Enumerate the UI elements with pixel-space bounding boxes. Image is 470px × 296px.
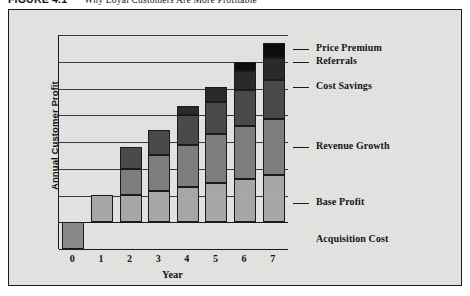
- bar-stack: [91, 195, 113, 222]
- bar-segment-base-profit: [120, 195, 142, 222]
- legend-label-cost-savings: Cost Savings: [316, 80, 372, 91]
- bar-segment-price-premium: [263, 43, 285, 58]
- x-tick-6: 6: [234, 253, 254, 264]
- figure-caption: FIGURE 4.1Why Loyal Customers Are More P…: [8, 0, 257, 5]
- zero-baseline: [59, 222, 288, 223]
- bar-segment-cost-savings: [205, 102, 227, 134]
- gridline: [59, 35, 288, 36]
- bar-stack: [205, 87, 227, 222]
- bar-segment-referrals: [263, 58, 285, 81]
- x-tick-5: 5: [205, 253, 225, 264]
- legend-label-price-premium: Price Premium: [316, 42, 382, 53]
- bar-segment-cost-savings: [234, 90, 256, 126]
- plot-area: [58, 35, 287, 249]
- figure-caption-text: Why Loyal Customers Are More Profitable: [84, 0, 257, 5]
- bar-segment-revenue-growth: [148, 155, 170, 191]
- x-tick-0: 0: [62, 253, 82, 264]
- x-tick-4: 4: [177, 253, 197, 264]
- legend-leader-line: [293, 62, 309, 63]
- bar-segment-cost-savings: [120, 147, 142, 168]
- x-tick-1: 1: [91, 253, 111, 264]
- bar-segment-referrals: [177, 106, 199, 115]
- bar-segment-revenue-growth: [177, 145, 199, 188]
- bar-segment-base-profit: [177, 187, 199, 222]
- bar-segment-price-premium: [234, 62, 256, 71]
- x-tick-2: 2: [120, 253, 140, 264]
- bar-stack: [148, 130, 170, 222]
- x-tick-7: 7: [263, 253, 283, 264]
- figure-number: FIGURE 4.1: [8, 0, 67, 5]
- legend-leader-line: [293, 49, 309, 50]
- bar-stack: [263, 43, 285, 222]
- bar-segment-revenue-growth: [205, 134, 227, 184]
- bar-stack: [234, 62, 256, 223]
- bar-segment-revenue-growth: [263, 119, 285, 175]
- x-axis-title: Year: [113, 269, 233, 280]
- bar-segment-revenue-growth: [234, 126, 256, 180]
- bar-segment-referrals: [234, 71, 256, 90]
- bar-segment-base-profit: [148, 191, 170, 222]
- legend-label-base-profit: Base Profit: [316, 196, 364, 207]
- x-axis-line: [59, 249, 288, 250]
- bar-segment-base-profit: [91, 195, 113, 222]
- bar-segment-base-profit: [263, 175, 285, 222]
- bar-segment-cost-savings: [148, 130, 170, 155]
- bar-stack: [177, 106, 199, 222]
- bar-segment-acquisition-cost: [62, 222, 84, 249]
- bar-segment-base-profit: [234, 179, 256, 222]
- legend-leader-line: [293, 203, 309, 204]
- legend-label-referrals: Referrals: [316, 55, 357, 66]
- legend-label-revenue-growth: Revenue Growth: [316, 140, 390, 151]
- bar-stack: [120, 147, 142, 222]
- legend-leader-line: [293, 147, 309, 148]
- bar-segment-base-profit: [205, 183, 227, 222]
- bar-segment-referrals: [205, 87, 227, 102]
- bar-segment-cost-savings: [263, 80, 285, 119]
- legend-label-acquisition-cost: Acquisition Cost: [316, 233, 388, 244]
- x-tick-3: 3: [148, 253, 168, 264]
- figure-frame: Annual Customer Profit 01234567 Year Pri…: [8, 9, 462, 286]
- legend-leader-line: [293, 87, 309, 88]
- bar-segment-revenue-growth: [120, 169, 142, 196]
- bar-segment-cost-savings: [177, 115, 199, 144]
- figure-root: FIGURE 4.1Why Loyal Customers Are More P…: [0, 0, 470, 296]
